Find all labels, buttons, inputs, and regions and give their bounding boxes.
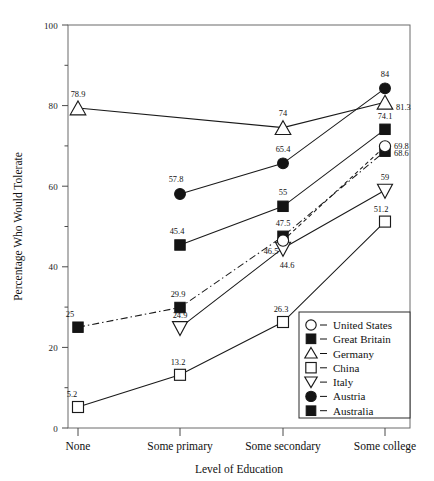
markers-germany	[70, 95, 393, 134]
circle-filled-icon	[306, 391, 316, 401]
marker-china-primary	[175, 369, 186, 380]
y-tick-0: 0	[53, 424, 58, 434]
legend-label: Great Britain	[333, 333, 391, 345]
label-gb-college: 74.1	[378, 112, 393, 121]
label-italy-secondary: 44.6	[280, 261, 295, 270]
square-filled-icon	[306, 406, 316, 416]
marker-austria-college	[380, 83, 391, 94]
label-germany-none: 78.9	[71, 90, 86, 99]
y-axis-tick-labels: 100 80 60 40 20 0	[44, 21, 58, 434]
marker-gb-secondary	[278, 201, 288, 211]
label-china-secondary: 26.3	[274, 305, 289, 314]
series-line-austria	[180, 88, 385, 194]
legend-label: Australia	[333, 405, 373, 417]
y-tick-20: 20	[49, 343, 59, 353]
label-us-secondary: 46.5	[264, 247, 279, 256]
marker-italy-primary	[173, 322, 188, 336]
marker-austria-primary	[175, 189, 186, 200]
square-filled-icon	[306, 334, 316, 344]
markers-australia	[73, 146, 390, 332]
legend-item-australia[interactable]: Australia	[306, 405, 373, 417]
label-italy-primary: 24.9	[173, 311, 188, 320]
marker-china-none	[73, 402, 84, 413]
square-open-icon	[306, 363, 316, 373]
series-line-germany	[78, 102, 385, 127]
marker-china-college	[380, 216, 391, 227]
x-tick-some-college: Some college	[354, 440, 416, 453]
legend-item-china[interactable]: China	[306, 362, 360, 374]
marker-germany-college	[377, 95, 393, 109]
chart-figure: 100 80 60 40 20 0 Percentage Who Would T…	[0, 0, 434, 481]
label-austria-college: 84	[381, 70, 390, 79]
y-tick-100: 100	[44, 21, 58, 31]
marker-gb-primary	[175, 240, 185, 250]
marker-australia-none	[73, 322, 83, 332]
x-axis-title: Level of Education	[195, 463, 283, 475]
marker-us-secondary	[277, 235, 288, 246]
label-gb-primary: 45.4	[170, 227, 185, 236]
y-axis-ticks	[62, 25, 68, 428]
label-china-college: 51.2	[374, 205, 389, 214]
label-germany-college: 81.3	[396, 103, 411, 112]
label-australia-secondary: 47.5	[276, 219, 291, 228]
label-austria-primary: 57.8	[169, 175, 184, 184]
circle-open-icon	[306, 320, 316, 330]
label-australia-college: 68.6	[394, 149, 409, 158]
line-chart-svg: 100 80 60 40 20 0 Percentage Who Would T…	[0, 0, 434, 481]
x-tick-some-primary: Some primary	[147, 440, 213, 453]
chart-legend: United States Great Britain Germany Chin…	[299, 312, 410, 418]
label-germany-secondary: 74	[279, 109, 288, 118]
x-tick-none: None	[66, 440, 91, 452]
legend-label: China	[333, 362, 359, 374]
label-gb-secondary: 55	[279, 188, 287, 197]
label-china-primary: 13.2	[171, 358, 186, 367]
legend-label: Austria	[333, 390, 366, 402]
y-tick-60: 60	[49, 182, 59, 192]
label-austria-secondary: 65.4	[276, 145, 291, 154]
y-tick-80: 80	[49, 101, 59, 111]
label-italy-college: 59	[381, 173, 389, 182]
x-tick-some-secondary: Some secondary	[245, 440, 321, 453]
x-axis-ticks	[78, 428, 385, 436]
marker-us-college	[379, 141, 390, 152]
marker-china-secondary	[278, 317, 289, 328]
marker-austria-secondary	[278, 158, 289, 169]
y-tick-40: 40	[49, 262, 59, 272]
marker-italy-college	[378, 184, 393, 198]
legend-label: Germany	[333, 348, 374, 360]
markers-austria	[175, 83, 391, 200]
label-australia-primary: 29.9	[171, 290, 186, 299]
x-axis-tick-labels: None Some primary Some secondary Some co…	[66, 440, 417, 453]
marker-gb-college	[380, 124, 390, 134]
label-australia-none: 25	[66, 310, 74, 319]
legend-label: United States	[333, 319, 392, 331]
legend-label: Italy	[333, 376, 354, 388]
label-china-none: 5.2	[67, 390, 77, 399]
legend-item-austria[interactable]: Austria	[306, 390, 366, 402]
y-axis-title: Percentage Who Would Tolerate	[12, 152, 25, 301]
series-line-australia	[78, 151, 385, 327]
